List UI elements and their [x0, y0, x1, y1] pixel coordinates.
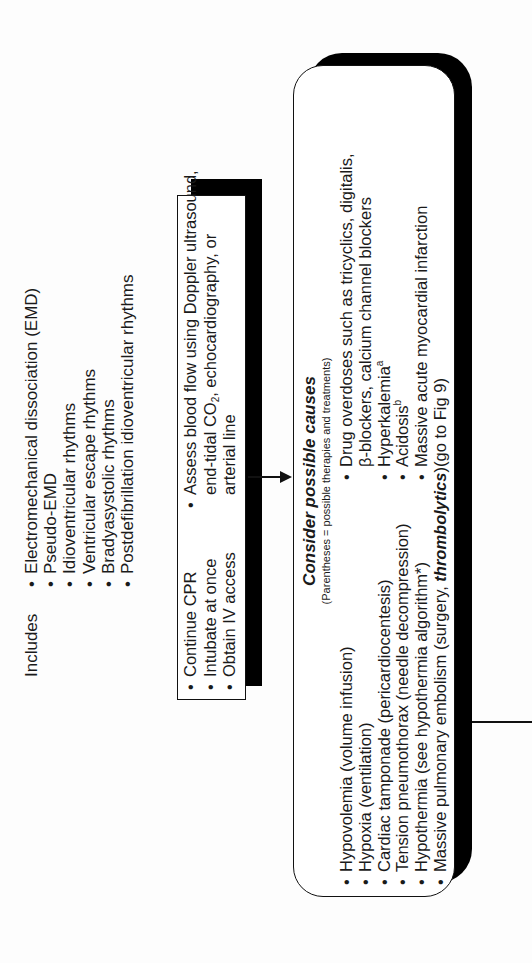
list-item: Pseudo-EMD	[41, 274, 60, 588]
connector-line	[472, 722, 532, 724]
footnote-mark: b	[392, 400, 403, 406]
list-item: Ventricular escape rhythms	[80, 274, 99, 588]
list-item: Tension pneumothorax (needle decompressi…	[393, 467, 412, 886]
causes-subtitle: (Parentheses = possible therapies and tr…	[320, 66, 332, 896]
includes-label: Includes	[22, 614, 41, 677]
list-item: Assess blood flow using Doppler ultrasou…	[181, 170, 201, 509]
causes-box: Consider possible causes (Parentheses = …	[293, 65, 455, 897]
list-item: Cardiac tamponade (pericardiocentesis)	[375, 467, 394, 886]
list-item: Massive acute myocardial infarction	[412, 153, 431, 481]
list-item: Postdefibrillation idioventricular rhyth…	[118, 274, 137, 588]
list-item: Intubate at once	[201, 552, 221, 691]
emphasis: thrombolytics	[431, 473, 449, 582]
list-item: Acidosisb	[393, 153, 412, 481]
causes-title: Consider possible causes	[300, 66, 320, 896]
assess-line-2: end-tidal CO2, echocardiography, or	[201, 170, 221, 509]
footnote-mark: a	[374, 361, 385, 367]
text: end-tidal CO	[201, 402, 219, 495]
text: , echocardiography, or	[201, 234, 219, 397]
arrow-down-icon	[280, 471, 292, 483]
subscript: 2	[209, 397, 220, 403]
arrow-connector	[248, 477, 284, 479]
assess-blood-flow: Assess blood flow using Doppler ultrasou…	[181, 170, 240, 509]
causes-list-right: Drug overdoses such as tricyclics, digit…	[337, 153, 450, 481]
list-item: Drug overdoses such as tricyclics, digit…	[337, 153, 356, 481]
text: Hyperkalemia	[375, 366, 393, 467]
list-item: Hypothermia (see hypothermia algorithm*)	[412, 467, 431, 886]
causes-list-left: Hypovolemia (volume infusion) Hypoxia (v…	[337, 467, 450, 886]
text: Massive pulmonary embolism (surgery,	[431, 582, 449, 872]
list-item: Bradyasystolic rhythms	[99, 274, 118, 588]
assess-line-3: arterial line	[220, 170, 240, 509]
list-item: Obtain IV access	[220, 552, 240, 691]
actions-list: Continue CPR Intubate at once Obtain IV …	[181, 552, 240, 691]
list-item: Electromechanical dissociation (EMD)	[22, 274, 41, 588]
text: Acidosis	[393, 406, 411, 467]
list-item-cont: β-blockers, calcium channel blockers	[356, 153, 375, 481]
list-item: Hypovolemia (volume infusion)	[337, 467, 356, 886]
list-item: Continue CPR	[181, 552, 201, 691]
list-item: Hypoxia (ventilation)	[356, 467, 375, 886]
list-item-cont: (go to Fig 9)	[431, 153, 450, 481]
includes-list: Electromechanical dissociation (EMD) Pse…	[22, 274, 137, 588]
actions-box: Continue CPR Intubate at once Obtain IV …	[177, 195, 246, 700]
list-item: Massive pulmonary embolism (surgery, thr…	[431, 467, 450, 886]
list-item: Hyperkalemiaa	[375, 153, 394, 481]
list-item: Idioventricular rhythms	[60, 274, 79, 588]
